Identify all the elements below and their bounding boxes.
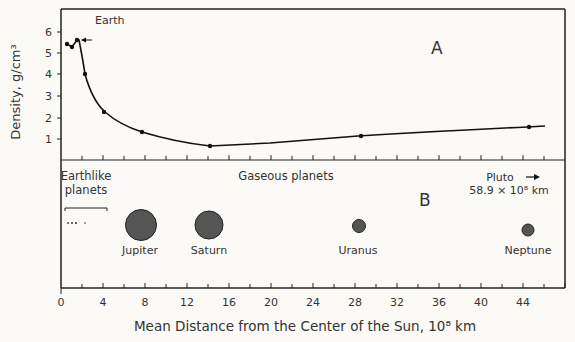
middle-axis-ticks bbox=[82, 155, 544, 160]
point-saturn bbox=[208, 144, 212, 148]
x-tick-label: 12 bbox=[180, 296, 194, 309]
x-tick-label: 16 bbox=[222, 296, 236, 309]
x-tick-label: 20 bbox=[264, 296, 278, 309]
x-tick-label: 24 bbox=[306, 296, 320, 309]
point-asteroid bbox=[102, 110, 106, 114]
jupiter-disc bbox=[126, 210, 157, 241]
x-tick-label: 8 bbox=[142, 296, 149, 309]
pluto-arrow-head bbox=[534, 174, 540, 180]
gaseous-label: Gaseous planets bbox=[238, 169, 333, 183]
earthlike-label-line1: Earthlike bbox=[61, 169, 112, 183]
density-curve bbox=[67, 40, 545, 146]
uranus-disc bbox=[353, 220, 366, 233]
density-distance-chart: 1 2 3 4 5 6 0 4 8 bbox=[0, 0, 575, 342]
y-tick-label: 1 bbox=[45, 133, 52, 146]
planet-discs bbox=[126, 210, 535, 241]
y-tick-label: 4 bbox=[45, 68, 52, 81]
earthlike-dots bbox=[67, 222, 86, 224]
point-neptune bbox=[527, 125, 531, 129]
x-tick-label: 44 bbox=[516, 296, 530, 309]
earthlike-label-line2: planets bbox=[65, 183, 107, 197]
y-tick-label: 5 bbox=[45, 47, 52, 60]
y-axis-title: Density, g/cm³ bbox=[8, 44, 23, 139]
x-tick-label: 4 bbox=[100, 296, 107, 309]
x-tick-label: 40 bbox=[474, 296, 488, 309]
panel-b-label: B bbox=[419, 190, 431, 210]
x-tick-label: 36 bbox=[432, 296, 446, 309]
pluto-label: Pluto bbox=[486, 171, 514, 184]
neptune-label: Neptune bbox=[504, 244, 551, 257]
x-tick-label: 28 bbox=[348, 296, 362, 309]
x-tick-label: 0 bbox=[58, 296, 65, 309]
panel-a-label: A bbox=[431, 38, 443, 58]
pluto-distance-label: 58.9 × 10⁸ km bbox=[469, 184, 549, 197]
earth-label: Earth bbox=[95, 14, 125, 27]
point-venus bbox=[70, 45, 74, 49]
earthlike-bracket bbox=[65, 208, 107, 211]
earth-arrow-head bbox=[81, 38, 86, 43]
neptune-disc bbox=[522, 224, 534, 236]
point-uranus bbox=[359, 134, 363, 138]
saturn-label: Saturn bbox=[191, 244, 227, 257]
x-tick-label: 32 bbox=[390, 296, 404, 309]
data-points bbox=[65, 38, 531, 148]
point-mercury bbox=[65, 42, 69, 46]
y-tick-label: 6 bbox=[45, 26, 52, 39]
point-mars bbox=[83, 72, 87, 76]
point-earth bbox=[75, 38, 79, 42]
y-tick-label: 3 bbox=[45, 90, 52, 103]
x-axis-title: Mean Distance from the Center of the Sun… bbox=[134, 318, 476, 334]
x-tick-labels: 0 4 8 12 16 20 24 28 32 36 40 44 bbox=[58, 296, 531, 309]
saturn-disc bbox=[195, 211, 223, 239]
jupiter-label: Jupiter bbox=[121, 244, 158, 257]
y-tick-labels: 1 2 3 4 5 6 bbox=[45, 26, 52, 146]
point-jupiter bbox=[140, 130, 144, 134]
uranus-label: Uranus bbox=[339, 244, 378, 257]
y-tick-label: 2 bbox=[45, 112, 52, 125]
